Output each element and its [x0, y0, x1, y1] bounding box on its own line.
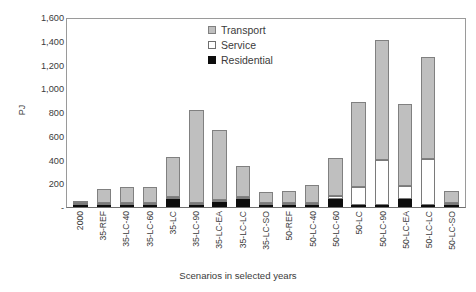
x-tick-slot: 35-LC-LC: [231, 209, 254, 267]
y-axis-tick: 800: [49, 108, 64, 118]
bar-segment-residential: [305, 205, 319, 207]
bar-segment-service: [351, 187, 365, 205]
y-axis-tick: 400: [49, 156, 64, 166]
stacked-bar[interactable]: [259, 192, 273, 207]
stacked-bar[interactable]: [305, 185, 319, 207]
bar-segment-residential: [120, 205, 134, 207]
x-tick-slot: 35-LC-40: [115, 209, 138, 267]
y-axis-tick: 1,000: [41, 84, 64, 94]
bar-segment-transport: [143, 187, 157, 203]
y-axis-tick: 600: [49, 132, 64, 142]
bar-segment-residential: [375, 205, 389, 207]
y-axis-tick: 1,200: [41, 61, 64, 71]
x-axis-tick: 50-LC-SO: [447, 211, 457, 250]
stacked-bar[interactable]: [351, 102, 365, 207]
stacked-bar[interactable]: [143, 187, 157, 207]
bar-segment-residential: [236, 199, 250, 207]
x-axis-tick: 50-LC-40: [308, 211, 318, 247]
bar-segment-residential: [97, 205, 111, 207]
legend-label-residential: Residential: [221, 54, 273, 66]
service-swatch-icon: [208, 41, 216, 49]
stacked-bar[interactable]: [282, 191, 296, 207]
stacked-bar[interactable]: [444, 191, 458, 207]
bar-segment-transport: [328, 158, 342, 196]
x-axis-tick: 2000: [75, 211, 85, 230]
bar-slot: [370, 19, 393, 207]
x-axis-tick: 50-REF: [284, 211, 294, 241]
stacked-bar[interactable]: [189, 110, 203, 207]
bar-segment-transport: [166, 157, 180, 197]
bar-slot: [347, 19, 370, 207]
bar-segment-residential: [212, 202, 226, 207]
bar-segment-transport: [259, 192, 273, 203]
stacked-bar[interactable]: [166, 157, 180, 207]
stacked-bar[interactable]: [120, 187, 134, 207]
bar-slot: [301, 19, 324, 207]
stacked-bar[interactable]: [398, 104, 412, 207]
bar-slot: [185, 19, 208, 207]
bar-slot: [92, 19, 115, 207]
x-axis-tick-labels: 200035-REF35-LC-4035-LC-6035-LC35-LC-903…: [66, 209, 466, 267]
x-tick-slot: 35-LC-EA: [208, 209, 231, 267]
bar-slot: [139, 19, 162, 207]
stacked-bar[interactable]: [236, 166, 250, 207]
stacked-bar[interactable]: [421, 57, 435, 207]
bar-slot: [393, 19, 416, 207]
legend-item-residential: Residential: [208, 54, 273, 66]
residential-swatch-icon: [208, 56, 216, 64]
bar-segment-transport: [236, 166, 250, 196]
bar-segment-service: [375, 160, 389, 205]
bar-slot: [440, 19, 463, 207]
bar-segment-residential: [189, 205, 203, 207]
x-tick-slot: 2000: [68, 209, 91, 267]
chart-legend: Transport Service Residential: [208, 24, 273, 69]
stacked-bar-chart: PJ -2004006008001,0001,2001,4001,600 Tra…: [0, 0, 476, 292]
bar-segment-transport: [351, 102, 365, 188]
x-axis-tick: 35-LC-90: [191, 211, 201, 247]
x-axis-tick: 35-LC-60: [145, 211, 155, 247]
stacked-bar[interactable]: [97, 189, 111, 207]
bar-segment-residential: [282, 205, 296, 207]
bar-segment-transport: [120, 187, 134, 203]
y-axis-tick: 200: [49, 179, 64, 189]
x-axis-tick: 35-REF: [98, 211, 108, 241]
bar-slot: [278, 19, 301, 207]
x-axis-tick: 50-LC-EA: [401, 211, 411, 249]
bar-segment-service: [421, 159, 435, 205]
y-axis-tick: -: [61, 203, 64, 213]
bar-slot: [162, 19, 185, 207]
bar-slot: [115, 19, 138, 207]
bar-segment-transport: [444, 191, 458, 203]
stacked-bar[interactable]: [328, 158, 342, 207]
stacked-bar[interactable]: [375, 40, 389, 207]
bar-segment-residential: [143, 205, 157, 207]
x-axis-tick: 50-LC: [354, 211, 364, 234]
x-axis-tick: 35-LC-EA: [214, 211, 224, 249]
bar-segment-residential: [166, 199, 180, 207]
x-tick-slot: 50-LC: [348, 209, 371, 267]
x-tick-slot: 50-LC-EA: [394, 209, 417, 267]
x-axis-title: Scenarios in selected years: [0, 270, 476, 281]
bar-segment-residential: [73, 205, 87, 207]
x-axis-tick: 35-LC-40: [121, 211, 131, 247]
y-axis-tick: 1,400: [41, 37, 64, 47]
x-tick-slot: 50-LC-40: [301, 209, 324, 267]
bar-segment-service: [398, 186, 412, 199]
bar-segment-transport: [305, 185, 319, 203]
x-axis-tick: 35-LC-SO: [261, 211, 271, 250]
stacked-bar[interactable]: [212, 130, 226, 207]
stacked-bar[interactable]: [73, 201, 87, 207]
legend-item-service: Service: [208, 39, 273, 51]
bar-segment-residential: [351, 205, 365, 207]
x-tick-slot: 50-LC-LC: [417, 209, 440, 267]
x-axis-tick: 35-LC: [168, 211, 178, 234]
x-tick-slot: 50-LC-90: [371, 209, 394, 267]
y-axis-tick-labels: -2004006008001,0001,2001,4001,600: [26, 12, 64, 212]
x-axis-tick: 50-LC-LC: [424, 211, 434, 248]
bar-segment-residential: [259, 205, 273, 207]
x-tick-slot: 50-REF: [278, 209, 301, 267]
bar-segment-transport: [282, 191, 296, 203]
legend-item-transport: Transport: [208, 24, 273, 36]
bar-segment-residential: [398, 199, 412, 207]
bar-segment-residential: [421, 205, 435, 207]
